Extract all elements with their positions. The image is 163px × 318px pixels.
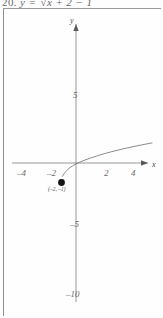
- vertex-point-label: (–2, –1): [48, 186, 65, 192]
- y-tick-label-neg10: –10: [66, 289, 80, 299]
- x-tick-label-2: 2: [104, 168, 109, 178]
- x-tick-label-neg4: –4: [17, 168, 26, 178]
- graph-svg: [0, 0, 163, 318]
- x-axis: [12, 160, 148, 165]
- y-tick-label-neg5: –5: [70, 219, 79, 229]
- x-tick-label-neg2: –2: [47, 168, 56, 178]
- graph-plot: –4 –2 2 4 5 –5 –10 x y (–2, –1): [0, 0, 163, 318]
- x-axis-label: x: [152, 160, 156, 169]
- x-tick-label-4: 4: [131, 168, 136, 178]
- y-axis-label: y: [70, 16, 74, 25]
- vertex-point-marker: [58, 179, 65, 186]
- y-tick-label-5: 5: [73, 90, 78, 100]
- figure-page: 20. y = √x + 2 − 1: [0, 0, 163, 318]
